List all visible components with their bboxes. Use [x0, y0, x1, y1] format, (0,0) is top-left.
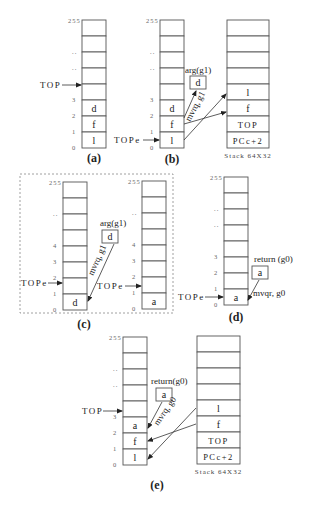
- stack-cell: [63, 278, 87, 294]
- stack-cell-value: l: [217, 403, 220, 414]
- register-stack: afl255....3210: [109, 334, 147, 468]
- arg-box-value: d: [108, 231, 113, 242]
- stack-index-label: 1: [132, 289, 136, 296]
- arrow-label: mvqr, g0: [253, 288, 286, 298]
- stack-cell: [123, 337, 147, 353]
- return-box-title: return (g0): [254, 254, 293, 264]
- stack-cell-value: a: [152, 296, 157, 307]
- stack-index-label: 1: [214, 285, 218, 292]
- stack-cell: [224, 193, 248, 209]
- stack-index-label: 2: [132, 273, 136, 280]
- top-pointer-label: TOP: [40, 80, 61, 90]
- panel-caption: (c): [77, 317, 90, 331]
- memory-stack: lfTOPPCc+2Stack 64X32: [224, 20, 271, 160]
- stack-cell-value: l: [134, 452, 137, 463]
- arg-box-title: arg(g1): [185, 65, 211, 75]
- stack-cell: [63, 230, 87, 246]
- stack-cell: [227, 20, 269, 36]
- stack-index-label: 3: [214, 253, 218, 260]
- stack-index-label: 3: [150, 96, 154, 103]
- register-stack: a255....3210: [210, 174, 248, 308]
- stack-cell: [160, 68, 184, 84]
- stack-index-label: 0: [113, 461, 117, 468]
- stack-cell: [63, 182, 87, 198]
- stack-index-label: ..: [150, 64, 155, 71]
- stack-index-label: 0: [150, 144, 154, 151]
- stack-index-label: 2: [150, 112, 154, 119]
- stack-cell: [82, 36, 106, 52]
- stack-cell: [224, 257, 248, 273]
- stack-cell: [142, 245, 166, 261]
- register-stack-after: a255..43210: [128, 178, 166, 312]
- stack-cell-value: d: [73, 297, 78, 308]
- stack-index-label: 255: [109, 334, 122, 341]
- stack-index-label: ..: [214, 221, 219, 228]
- stack-index-label: 1: [113, 445, 117, 452]
- stack-cell-value: PCc+2: [203, 452, 234, 462]
- stack-index-label: 255: [210, 174, 223, 181]
- return-box-title: return(g0): [151, 376, 187, 386]
- stack-index-label: 4: [132, 241, 136, 248]
- stack-cell: [224, 177, 248, 193]
- register-stack: dfl255....3210: [68, 17, 106, 151]
- stack-index-label: 2: [113, 429, 117, 436]
- stack-cell: [142, 181, 166, 197]
- stack-cell: [123, 401, 147, 417]
- stack-cell: [224, 209, 248, 225]
- stack-index-label: 3: [132, 257, 136, 264]
- stack-index-label: ..: [113, 381, 118, 388]
- return-box-value: a: [162, 389, 167, 400]
- stack-cell-value: TOP: [208, 436, 228, 446]
- stack-index-label: 2: [53, 274, 57, 281]
- top-pointer-label: TOPe: [114, 135, 141, 145]
- stack-cell: [142, 229, 166, 245]
- stack-index-label: ..: [72, 48, 77, 55]
- panel-caption: (a): [87, 151, 101, 165]
- stack-cell-value: TOP: [238, 120, 258, 130]
- stack-index-label: 3: [72, 96, 76, 103]
- stack-cell: [123, 369, 147, 385]
- stack-index-label: ..: [53, 210, 58, 217]
- stack-cell: [197, 336, 240, 352]
- stack-index-label: ..: [214, 205, 219, 212]
- stack-cell: [160, 84, 184, 100]
- stack-cell: [160, 20, 184, 36]
- stack-cell-value: a: [234, 292, 239, 303]
- stack-cell: [82, 84, 106, 100]
- stack-cell: [142, 197, 166, 213]
- stack-index-label: 1: [53, 290, 57, 297]
- stack-index-label: 255: [128, 178, 141, 185]
- stack-cell: [224, 241, 248, 257]
- stack-index-label: ..: [72, 64, 77, 71]
- stack-index-label: 2: [214, 269, 218, 276]
- stack-cell: [227, 68, 269, 84]
- return-box-value: a: [258, 267, 263, 278]
- arrow-label: mvrq, g1: [183, 90, 207, 123]
- arrow-label: mvrq, g1: [86, 243, 108, 277]
- stack-index-label: 255: [68, 17, 81, 24]
- stack-cell: [224, 273, 248, 289]
- panel-caption: (b): [165, 152, 180, 166]
- stack-index-label: 0: [132, 305, 136, 312]
- stack-cell: [63, 262, 87, 278]
- stack-cell: [160, 52, 184, 68]
- link-f: [148, 424, 196, 441]
- stack-cell-value: d: [170, 103, 175, 114]
- register-stack: dfl255....3210: [146, 17, 184, 151]
- stack-index-label: 255: [146, 17, 159, 24]
- stack-caption: Stack 64X32: [224, 152, 271, 160]
- stack-diagram: dfl255....3210dfl255....3210lfTOPPCc+2St…: [0, 0, 314, 506]
- stack-cell: [63, 214, 87, 230]
- memory-stack: lfTOPPCc+2Stack 64X32: [195, 336, 242, 476]
- stack-index-label: 0: [72, 144, 76, 151]
- stack-cell: [63, 198, 87, 214]
- stack-cell: [224, 225, 248, 241]
- register-stack-before: d255..43210: [49, 179, 87, 313]
- stack-cell: [63, 246, 87, 262]
- stack-index-label: 4: [53, 242, 57, 249]
- stack-caption: Stack 64X32: [195, 468, 242, 476]
- top-pointer-label: TOP: [82, 406, 103, 416]
- arg-box-title: arg(g1): [100, 218, 126, 228]
- top-pointer-label: TOPe: [21, 278, 48, 288]
- stack-cell: [227, 36, 269, 52]
